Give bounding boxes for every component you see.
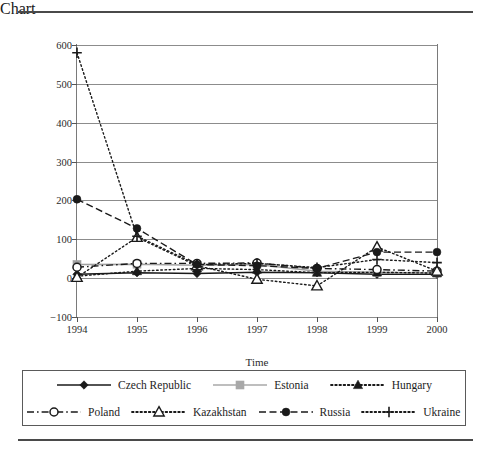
x-tick-label: 1999 [367, 324, 388, 335]
legend-row-bottom: PolandKazakhstanRussiaUkraine [23, 398, 467, 426]
series-line [77, 199, 437, 268]
legend-swatch [55, 378, 113, 392]
data-point-marker-open-circle [133, 259, 141, 267]
y-tick-label: 100 [56, 234, 77, 245]
legend-label: Poland [83, 406, 120, 418]
x-tick-mark [137, 317, 138, 322]
legend-item-russia[interactable]: Russia [257, 405, 351, 419]
data-point-marker-open-circle [73, 263, 81, 271]
y-tick-label: −100 [50, 312, 77, 323]
line-chart-figure: Percentage change Time 60050040030020010… [0, 18, 489, 428]
x-tick-mark [197, 317, 198, 322]
x-tick-mark [257, 317, 258, 322]
x-tick-mark [77, 317, 78, 322]
x-tick-mark [437, 317, 438, 322]
series-ukraine [72, 48, 442, 273]
legend-item-poland[interactable]: Poland [25, 405, 120, 419]
x-tick-label: 1995 [127, 324, 148, 335]
y-tick-label: 400 [56, 117, 77, 128]
legend-key-dashed-filled-circle [257, 405, 315, 419]
data-point-marker-open-circle [373, 266, 381, 274]
legend-key-dotted-plus [360, 405, 418, 419]
x-axis-label: Time [77, 356, 437, 368]
bottom-rule [18, 439, 473, 441]
x-tick-label: 1997 [247, 324, 268, 335]
legend-key-solid-diamond [55, 378, 113, 392]
legend-label: Ukraine [418, 406, 460, 418]
data-point-marker-plus [384, 407, 394, 417]
x-tick-label: 1994 [67, 324, 88, 335]
legend-key-dotted-triangle [329, 378, 387, 392]
legend-item-hungary[interactable]: Hungary [329, 378, 432, 392]
x-tick-label: 1996 [187, 324, 208, 335]
data-point-marker-filled-diamond [80, 381, 88, 389]
legend-swatch [257, 405, 315, 419]
legend-item-ukraine[interactable]: Ukraine [360, 405, 460, 419]
top-rule [18, 11, 473, 13]
data-point-marker-filled-circle [282, 408, 290, 416]
y-tick-label: 500 [56, 78, 77, 89]
series-line [77, 53, 437, 268]
legend-key-dashdot-open-circle [25, 405, 83, 419]
x-tick-label: 1998 [307, 324, 328, 335]
y-tick-label: 300 [56, 156, 77, 167]
legend-swatch [130, 405, 188, 419]
data-series-layer [77, 45, 437, 317]
legend-swatch [25, 405, 83, 419]
data-point-marker-filled-circle [73, 195, 81, 203]
data-point-marker-filled-circle [433, 248, 441, 256]
y-tick-label: 600 [56, 40, 77, 51]
plot-area-wrapper: Percentage change Time 60050040030020010… [0, 18, 489, 348]
legend-label: Hungary [387, 379, 432, 391]
data-point-marker-open-circle [50, 408, 58, 416]
legend-swatch [329, 378, 387, 392]
plot-axes: 6005004003002001000−100 1994199519961997… [77, 45, 437, 317]
data-point-marker-plus [432, 257, 442, 267]
legend-label: Czech Republic [113, 379, 191, 391]
chart-legend: Czech RepublicEstoniaHungary PolandKazak… [22, 370, 466, 426]
x-tick-mark [377, 317, 378, 322]
legend-swatch [360, 405, 418, 419]
legend-label: Estonia [269, 379, 309, 391]
data-point-marker-filled-square [236, 381, 244, 389]
data-point-marker-open-triangle [252, 274, 262, 283]
legend-label: Kazakhstan [188, 406, 247, 418]
legend-key-gray-solid-square [211, 378, 269, 392]
legend-row-top: Czech RepublicEstoniaHungary [23, 371, 489, 399]
legend-label: Russia [315, 406, 351, 418]
legend-item-estonia[interactable]: Estonia [211, 378, 309, 392]
x-tick-label: 2000 [427, 324, 448, 335]
legend-key-dotted-open-triangle [130, 405, 188, 419]
figure-page: Percentage change Time 60050040030020010… [0, 0, 489, 450]
legend-swatch [211, 378, 269, 392]
legend-item-czech-republic[interactable]: Czech Republic [55, 378, 191, 392]
x-tick-mark [317, 317, 318, 322]
data-point-marker-plus [372, 254, 382, 264]
legend-item-kazakhstan[interactable]: Kazakhstan [130, 405, 247, 419]
